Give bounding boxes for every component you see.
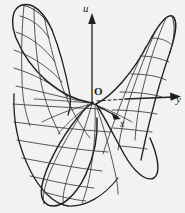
left-mesh-level-5: [16, 86, 80, 101]
lower-rule-3: [82, 106, 95, 203]
y-axis-line: [126, 97, 174, 99]
right-mesh-level-1: [151, 38, 171, 44]
saddle-surface-drawing: [0, 0, 185, 213]
figure-hyperbolic-paraboloid: u y x O: [0, 0, 185, 213]
left-rule-3: [44, 16, 90, 138]
right-lobe-cap-curve: [170, 16, 174, 52]
right-mesh-level-5: [112, 110, 157, 114]
mesh-lines: [13, 4, 176, 206]
front-right-parabola: [96, 104, 158, 179]
axis-label-x: x: [120, 119, 124, 129]
right-mesh-level-6: [113, 128, 152, 132]
origin-point: [91, 102, 94, 105]
left-rule-1: [22, 6, 30, 126]
axis-label-u: u: [83, 3, 89, 14]
origin-label: O: [94, 86, 103, 97]
lower-rule-1: [43, 104, 88, 204]
left-lobe-inner-edge: [52, 30, 70, 115]
u-axis-arrow-icon: [88, 13, 96, 24]
axis-label-y: y: [176, 94, 181, 105]
right-lobe-inner-edge: [141, 52, 170, 160]
